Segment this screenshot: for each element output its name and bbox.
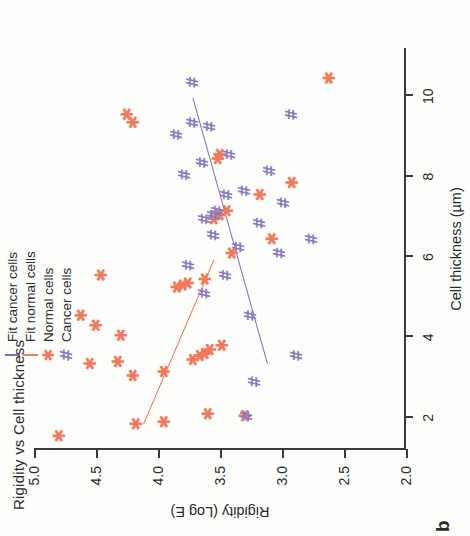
- data-point-cancer: #: [206, 229, 221, 242]
- data-point-normal: ✱: [251, 188, 268, 202]
- data-point-cancer: #: [284, 108, 299, 121]
- data-point-cancer: #: [185, 76, 200, 89]
- data-point-normal: ✱: [50, 429, 67, 443]
- data-point-normal: ✱: [81, 356, 98, 370]
- data-point-normal: ✱: [184, 352, 201, 366]
- x-tick: [405, 94, 413, 96]
- y-tick: [158, 449, 160, 458]
- data-point-normal: ✱: [202, 342, 219, 356]
- data-point-normal: ✱: [192, 348, 209, 362]
- y-tick: [34, 449, 36, 458]
- data-point-normal: ✱: [168, 280, 185, 294]
- data-point-normal: ✱: [199, 407, 216, 421]
- data-point-cancer: #: [220, 188, 235, 201]
- data-point-cancer: #: [277, 196, 292, 209]
- x-tick-label: 6: [420, 253, 436, 261]
- x-tick-label: 8: [420, 173, 436, 181]
- data-point-normal: ✱: [264, 232, 281, 246]
- figure-canvas: Rigidity vs Cell thickness b Fit cancer …: [0, 0, 470, 536]
- y-tick: [344, 449, 346, 458]
- y-tick-label: 4.0: [150, 466, 166, 485]
- data-point-cancer: #: [182, 259, 197, 272]
- x-axis-line: [404, 48, 406, 450]
- y-tick: [406, 449, 408, 458]
- data-point-cancer: #: [206, 209, 221, 222]
- data-point-cancer: #: [240, 410, 255, 423]
- data-point-normal: ✱: [174, 278, 191, 292]
- data-point-normal: ✱: [212, 147, 229, 161]
- data-point-normal: ✱: [125, 369, 142, 383]
- legend-key-line: [5, 342, 20, 368]
- y-tick-label: 3.0: [274, 466, 290, 485]
- y-tick: [282, 449, 284, 458]
- x-tick: [405, 175, 413, 177]
- data-point-normal: ✱: [197, 346, 214, 360]
- plot-area: Cell thickness (µm) Rigidity (Log E) 246…: [34, 48, 406, 450]
- data-point-normal: ✱: [119, 107, 136, 121]
- y-axis-label: Rigidity (Log E): [170, 504, 269, 520]
- data-point-cancer: #: [252, 217, 267, 230]
- legend-item-label: Fit cancer cells: [5, 252, 20, 342]
- data-point-normal: ✱: [125, 115, 142, 129]
- data-point-normal: ✱: [156, 415, 173, 429]
- data-point-normal: ✱: [92, 268, 109, 282]
- data-point-cancer: #: [237, 184, 252, 197]
- screenshot-root: Rigidity vs Cell thickness b Fit cancer …: [0, 0, 470, 536]
- x-tick-label: 2: [420, 414, 436, 422]
- y-tick-label: 5.0: [26, 466, 42, 485]
- data-point-cancer: #: [247, 375, 262, 388]
- y-tick: [220, 449, 222, 458]
- data-point-cancer: #: [262, 164, 277, 177]
- legend-line-swatch: [5, 354, 20, 356]
- data-point-cancer: #: [195, 156, 210, 169]
- y-tick: [96, 449, 98, 458]
- data-point-normal: ✱: [88, 318, 105, 332]
- data-point-normal: ✱: [110, 354, 127, 368]
- data-point-normal: ✱: [205, 212, 222, 226]
- y-tick-label: 4.5: [88, 466, 104, 485]
- x-tick: [405, 255, 413, 257]
- data-point-cancer: #: [219, 269, 234, 282]
- x-tick-label: 4: [420, 334, 436, 342]
- data-point-normal: ✱: [214, 338, 231, 352]
- data-point-normal: ✱: [112, 328, 129, 342]
- data-point-normal: ✱: [321, 71, 338, 85]
- data-point-normal: ✱: [127, 417, 144, 431]
- data-point-cancer: #: [178, 168, 193, 181]
- legend-item: Fit cancer cells: [4, 251, 21, 368]
- data-point-normal: ✱: [236, 409, 253, 423]
- data-point-cancer: #: [272, 247, 287, 260]
- data-point-cancer: #: [244, 309, 259, 322]
- y-tick-label: 2.5: [336, 466, 352, 485]
- x-tick-label: 10: [420, 88, 436, 104]
- x-tick: [405, 416, 413, 418]
- panel-label: b: [432, 520, 454, 532]
- data-point-cancer: #: [222, 148, 237, 161]
- data-point-normal: ✱: [73, 308, 90, 322]
- fit-line-normal: [143, 259, 215, 424]
- data-point-cancer: #: [169, 128, 184, 141]
- data-point-cancer: #: [304, 233, 319, 246]
- y-tick-label: 3.5: [212, 466, 228, 485]
- data-point-cancer: #: [198, 213, 213, 226]
- data-point-normal: ✱: [179, 276, 196, 290]
- x-tick: [405, 335, 413, 337]
- y-tick-label: 2.0: [398, 466, 414, 485]
- data-point-normal: ✱: [219, 204, 236, 218]
- data-point-normal: ✱: [283, 176, 300, 190]
- fit-line-cancer: [193, 98, 268, 364]
- data-point-cancer: #: [289, 349, 304, 362]
- data-point-cancer: #: [203, 120, 218, 133]
- x-axis-label: Cell thickness (µm): [448, 187, 464, 311]
